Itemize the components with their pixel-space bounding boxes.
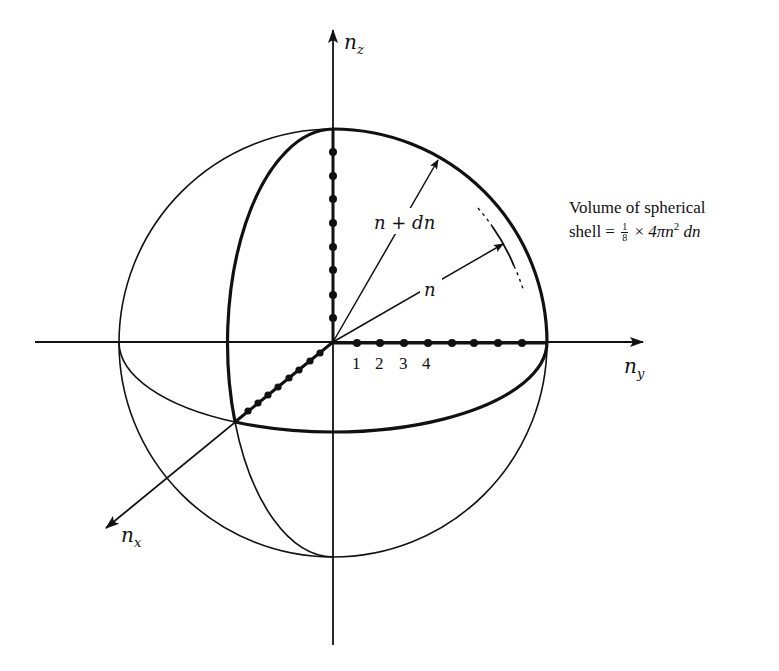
- times-sign: ×: [634, 222, 644, 241]
- octant-outer-arc: [333, 129, 547, 343]
- y-tick-2: 2: [375, 354, 384, 373]
- meridian-lower: [235, 422, 333, 557]
- inner-shell-arc-dashed-bottom: [514, 266, 524, 292]
- y-tick-1: 1: [352, 354, 361, 373]
- equator-front-left: [119, 342, 235, 422]
- caption-line-1: Volume of spherical: [569, 199, 706, 217]
- inner-shell-arc-solid: [492, 226, 514, 266]
- shell-volume-caption: Volume of spherical shell = 18 × 4πn2 dn: [569, 199, 706, 243]
- radius-n-arrow: [333, 244, 503, 342]
- z-axis-label: nz: [344, 30, 364, 57]
- inner-shell-arc-dashed-top: [478, 208, 492, 226]
- spherical-shell-diagram: nz ny nx 1 2 3 4 n + dn n: [0, 0, 779, 671]
- expr-4pi-n: 4πn: [648, 222, 674, 241]
- y-tick-4: 4: [422, 354, 431, 373]
- radius-inner-label: n: [424, 279, 436, 300]
- caption-prefix: shell =: [569, 222, 619, 241]
- x-axis-label: nx: [121, 523, 142, 550]
- y-tick-3: 3: [399, 354, 408, 373]
- caption-line-2: shell = 18 × 4πn2 dn: [569, 217, 706, 243]
- x-axis-thick-segment: [235, 342, 333, 422]
- one-eighth-fraction: 18: [621, 222, 628, 243]
- meridian-right-lower: [333, 342, 547, 557]
- equator-front-right-thick: [235, 342, 547, 432]
- meridian-upper-thick: [228, 129, 333, 422]
- radius-outer-label: n + dn: [374, 212, 435, 233]
- expr-dn: dn: [679, 222, 700, 241]
- y-axis-label: ny: [624, 354, 645, 381]
- radius-n-plus-dn-arrow: [333, 160, 438, 342]
